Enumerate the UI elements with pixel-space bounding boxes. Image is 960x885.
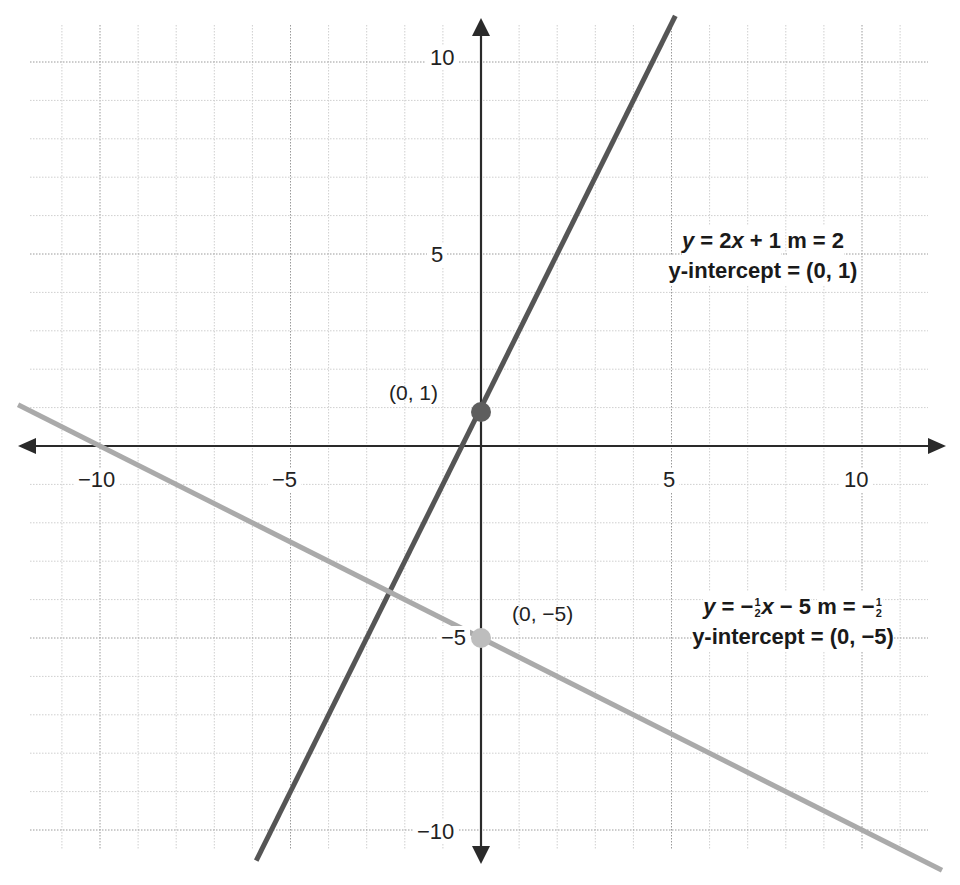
x-tick-neg5: −5 <box>268 468 301 492</box>
x-tick-5: 5 <box>659 468 679 492</box>
equation-1-formula: y = 2x + 1 <box>682 226 781 256</box>
y-tick-5: 5 <box>427 243 447 267</box>
axes <box>18 18 946 864</box>
equation-2-intercept: y-intercept = (0, −5) <box>692 622 894 652</box>
fraction-one-half: 12 <box>754 597 760 619</box>
equation-2-formula: y = −12x − 5 <box>703 592 811 622</box>
x-axis-left-arrow-icon <box>18 438 36 454</box>
equation-2-annotation: y = −12x − 5 m = −12 y-intercept = (0, −… <box>648 592 938 652</box>
fraction-one-half: 12 <box>876 597 882 619</box>
x-tick-neg10: −10 <box>74 468 119 492</box>
grid <box>30 25 928 850</box>
x-tick-10: 10 <box>840 468 872 492</box>
line-y-2x-plus-1 <box>256 16 675 861</box>
y-axis-up-arrow-icon <box>472 18 490 36</box>
equation-1-annotation: y = 2x + 1 m = 2 y-intercept = (0, 1) <box>638 226 888 286</box>
y-axis-down-arrow-icon <box>472 846 490 864</box>
equation-2-slope: m = −12 <box>817 592 883 622</box>
x-axis-right-arrow-icon <box>928 438 946 454</box>
equation-1-intercept: y-intercept = (0, 1) <box>669 256 858 286</box>
point-0-neg5 <box>471 628 491 648</box>
equation-1-slope: m = 2 <box>787 226 844 256</box>
y-tick-10: 10 <box>426 46 458 70</box>
y-tick-neg5: −5 <box>437 626 470 650</box>
coordinate-plane <box>0 0 960 885</box>
y-tick-neg10: −10 <box>413 820 458 844</box>
point-label-0-neg5: (0, −5) <box>512 602 573 626</box>
point-0-1 <box>471 402 491 422</box>
point-label-0-1: (0, 1) <box>389 381 438 405</box>
